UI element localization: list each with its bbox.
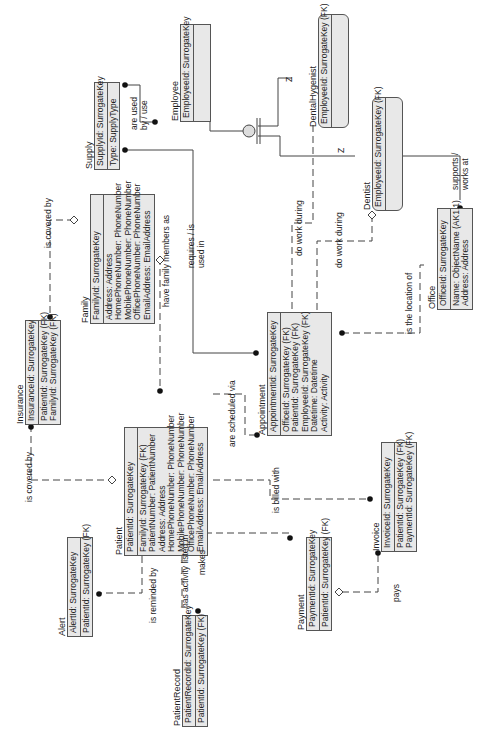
attribute-field: FamilyId: SurrogateKey (FK) xyxy=(49,324,59,421)
key-field: PaymentId: SurrogateKey xyxy=(307,538,319,630)
entity-title: Employee xyxy=(170,24,180,121)
key-field: EmployeeId: SurrogateKey (FK) xyxy=(319,15,331,127)
key-field: OfficeId: SurrogateKey xyxy=(438,209,450,309)
entity-dental-hygenist[interactable]: DentalHygenist EmployeeId: SurrogateKey … xyxy=(308,14,349,128)
entity-title: Appointment xyxy=(257,312,267,435)
label-are-scheduled-via: are scheduled via xyxy=(228,380,238,447)
attribute-field: Address: Address xyxy=(461,212,471,306)
attribute-field: Activity: Activity xyxy=(320,316,330,432)
entity-dentist[interactable]: Dentist EmployeeId: SurrogateKey (FK) xyxy=(362,97,403,211)
label-are-used-by: are used by / use xyxy=(130,90,149,130)
label-has-activity: has activity listed in xyxy=(181,535,191,608)
entity-title: Patient xyxy=(114,427,124,555)
entity-title: Supply xyxy=(84,82,94,169)
label-do-work-during-hyg: do work during xyxy=(295,200,305,256)
key-field: AppointmentId: SurrogateKey xyxy=(268,313,280,435)
entity-title: Payment xyxy=(296,537,306,630)
label-have-family-members: have family members as xyxy=(162,215,172,307)
hygenist-subtype-line xyxy=(258,78,292,126)
entity-alert[interactable]: Alert AlertId: SurrogateKey PatientId: S… xyxy=(57,537,93,637)
label-makes: makes xyxy=(198,550,208,575)
invoice-payment-line xyxy=(339,555,378,592)
key-field: EmployeeId: SurrogateKey xyxy=(181,25,193,121)
entity-title: Office xyxy=(427,208,437,309)
key-field: EmployeeId: SurrogateKey (FK) xyxy=(373,98,385,210)
entity-supply[interactable]: Supply SupplyId: SurrogateKey Type: Supp… xyxy=(84,82,120,170)
entity-title: PatientRecord xyxy=(172,615,182,726)
label-is-billed-with: is billed with xyxy=(272,467,282,513)
label-pays: pays xyxy=(392,584,402,602)
entity-title: Dentist xyxy=(362,97,372,210)
entity-office[interactable]: Office OfficeId: SurrogateKey Name: Obje… xyxy=(427,208,473,310)
label-subtype-z1: Z xyxy=(285,77,295,82)
entity-payment[interactable]: Payment PaymentId: SurrogateKey PatientI… xyxy=(296,537,332,631)
patient-alert-line xyxy=(99,556,142,593)
entity-title: Family xyxy=(80,194,90,323)
key-field: PatientId: SurrogateKey xyxy=(125,428,137,555)
attribute-field: PatientId: SurrogateKey (FK) xyxy=(319,538,332,630)
entity-title: Alert xyxy=(57,537,67,636)
entity-appointment[interactable]: Appointment AppointmentId: SurrogateKey … xyxy=(257,312,332,436)
label-requires: requires / is used in xyxy=(187,222,206,268)
attribute-field: Type: SupplyType xyxy=(107,83,120,169)
attribute-field: EmailAddress: EmailAddress xyxy=(196,431,206,552)
key-field: FamilyId: SurrogateKey xyxy=(91,195,103,323)
entity-insurance[interactable]: Insurance InsuranceId: SurrogateKey Pati… xyxy=(15,320,61,425)
entity-family[interactable]: Family FamilyId: SurrogateKey Address: A… xyxy=(80,194,155,324)
entity-title: DentalHygenist xyxy=(308,14,318,127)
label-subtype-z2: Z xyxy=(337,148,347,153)
patient-invoice-line xyxy=(213,480,370,499)
family-insurance-line xyxy=(50,220,74,317)
attribute-field: EmailAddress: EmailAddress xyxy=(143,198,153,320)
dentist-subtype-line xyxy=(258,136,355,156)
key-field: InvoiceId: SurrogateKey xyxy=(382,443,394,551)
key-field: AlertId: SurrogateKey xyxy=(68,538,80,636)
attribute-field: PaymentId: SurrogateKey (FK) xyxy=(405,446,415,548)
entity-title: Invoice xyxy=(371,442,381,551)
key-field: InsuranceId: SurrogateKey xyxy=(26,321,38,424)
entity-patient[interactable]: Patient PatientId: SurrogateKey FamilyId… xyxy=(114,427,208,556)
entity-patient-record[interactable]: PatientRecord PatientRecordId: Surrogate… xyxy=(172,615,208,727)
attribute-field: PatientId: SurrogateKey (FK) xyxy=(80,538,93,636)
entity-title: Insurance xyxy=(15,320,25,424)
label-is-covered-by-patient: is covered by xyxy=(25,452,35,502)
label-supports: supports / works at xyxy=(451,150,470,190)
dentist-appointment-line xyxy=(317,215,372,318)
label-is-location-of: is the location of xyxy=(405,273,415,334)
subtype-circle xyxy=(243,125,255,137)
key-field: PatientRecordId: SurrogateKey xyxy=(183,616,195,726)
label-is-covered-by-family: is covered by xyxy=(44,198,54,248)
insurance-patient-line xyxy=(31,425,112,480)
entity-employee[interactable]: Employee EmployeeId: SurrogateKey xyxy=(170,24,211,122)
key-field: SupplyId: SurrogateKey xyxy=(95,83,107,169)
attribute-field: PatientId: SurrogateKey (FK) xyxy=(195,616,208,726)
entity-invoice[interactable]: Invoice InvoiceId: SurrogateKey PatientI… xyxy=(371,442,417,552)
label-do-work-during-dent: do work during xyxy=(335,212,345,268)
label-is-reminded-by: is reminded by xyxy=(149,568,159,623)
er-diagram-canvas: Employee EmployeeId: SurrogateKey Dental… xyxy=(0,0,499,739)
